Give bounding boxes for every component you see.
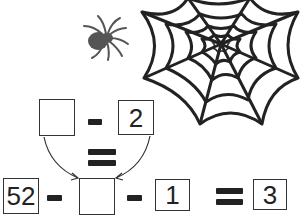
result-number-box: 3: [253, 179, 287, 210]
blank-answer-box[interactable]: [79, 178, 115, 215]
third-number-box: 1: [155, 179, 190, 211]
equals-sign-bottom: [216, 188, 243, 206]
minus-sign-2: [127, 195, 142, 201]
first-number-box: 52: [3, 178, 39, 214]
equals-sign-middle: [88, 149, 116, 167]
minus-sign-1: [47, 195, 62, 201]
